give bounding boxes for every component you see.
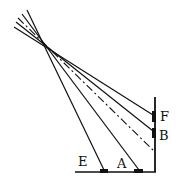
ray-diagram <box>0 0 176 188</box>
label-E: E <box>78 155 88 168</box>
mark-F <box>152 111 156 122</box>
ray-E <box>27 10 104 170</box>
ray-F <box>14 27 153 115</box>
mark-B <box>152 128 156 138</box>
label-B: B <box>159 129 169 142</box>
label-F: F <box>160 110 169 123</box>
label-A: A <box>117 157 126 170</box>
ray-axis-dashdot <box>18 18 155 152</box>
ray-B <box>16 22 153 131</box>
